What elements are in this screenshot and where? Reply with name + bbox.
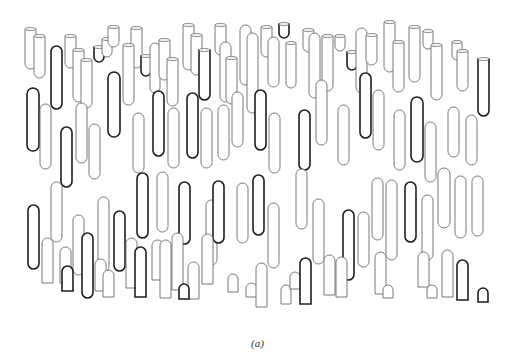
cell-shape-rod xyxy=(40,104,51,169)
cell-shape-rod xyxy=(153,91,164,156)
cell-shape-rod xyxy=(255,90,266,150)
cell-shape-cup xyxy=(347,50,357,70)
cell-shape-stub xyxy=(281,285,291,304)
cell-shape-rod xyxy=(213,181,224,243)
cell-shape-stub xyxy=(202,234,213,284)
cell-shape-cup xyxy=(141,54,151,76)
cell-shape-rod xyxy=(27,88,39,151)
cell-shape-tube xyxy=(286,41,296,88)
cell-shape-rod xyxy=(316,80,327,145)
cell-shape-rod xyxy=(268,37,279,87)
cell-shape-rod xyxy=(237,183,248,243)
cell-shape-stub xyxy=(442,250,453,297)
cell-shape-rod xyxy=(455,176,466,238)
cell-shape-cup xyxy=(335,34,345,51)
cell-shape-rod xyxy=(372,178,383,240)
cell-shape-rod xyxy=(268,203,279,268)
cell-shape-stub xyxy=(172,233,183,290)
cell-shape-stub xyxy=(62,266,73,291)
cell-shape-tube xyxy=(123,43,134,105)
cell-shape-rod xyxy=(201,108,212,168)
cell-shape-stub xyxy=(135,247,146,297)
cell-shape-stub xyxy=(246,283,257,297)
cell-shape-stub xyxy=(179,284,189,299)
cell-shape-stub xyxy=(228,274,238,292)
cell-shape-tube xyxy=(108,25,119,47)
cell-shape-rod xyxy=(360,73,371,138)
cell-shape-rod xyxy=(422,195,433,260)
cell-shape-rod xyxy=(448,107,459,157)
cell-shape-rod xyxy=(425,122,436,182)
cell-shape-rod xyxy=(82,233,93,298)
cell-shape-tube xyxy=(409,25,420,82)
cell-shape-tube xyxy=(366,33,377,65)
cell-shape-rod xyxy=(472,176,483,236)
cell-shape-stub xyxy=(256,263,267,307)
cell-shape-stub xyxy=(383,285,393,298)
cell-shape-rod xyxy=(269,113,280,173)
cell-shape-rod xyxy=(218,105,229,160)
cell-shape-stub xyxy=(42,238,53,283)
cell-shape-rod xyxy=(137,173,148,238)
cell-shape-rod xyxy=(338,105,349,165)
cell-field-figure xyxy=(0,0,515,330)
cell-shape-rod xyxy=(150,43,160,93)
cell-shape-stub xyxy=(457,260,468,300)
cell-shape-stub xyxy=(478,288,488,302)
cell-shape-rod xyxy=(133,113,144,173)
cell-shape-rod xyxy=(232,92,243,147)
cell-shape-rod xyxy=(296,169,307,229)
cell-shape-cup xyxy=(279,22,289,38)
cell-shape-tube xyxy=(167,57,178,106)
cell-shape-tube xyxy=(478,57,489,116)
cell-field-drawing xyxy=(0,0,515,330)
cell-shape-stub xyxy=(300,258,311,304)
cell-shape-rod xyxy=(411,97,423,162)
cell-shape-rod xyxy=(253,175,264,235)
cell-shape-rod xyxy=(386,180,397,260)
cell-shape-rod xyxy=(61,127,72,187)
cell-shape-rod xyxy=(168,108,179,168)
cell-shape-tube xyxy=(81,58,92,108)
cell-shape-rod xyxy=(51,46,62,109)
cell-shape-rod xyxy=(313,199,324,264)
cell-shape-stub xyxy=(336,257,347,297)
cell-shape-rod xyxy=(76,103,87,163)
cell-shape-stub xyxy=(418,252,429,287)
cell-shape-stub xyxy=(160,240,171,298)
cell-shape-rod xyxy=(405,182,416,242)
cell-shape-stub xyxy=(324,255,335,295)
cell-shape-stub xyxy=(103,270,114,297)
cell-shape-tube xyxy=(457,49,468,91)
cell-shape-rod xyxy=(187,93,198,158)
cell-shape-tube xyxy=(199,48,210,100)
cell-shape-rod xyxy=(51,182,62,242)
cell-shape-tube xyxy=(431,43,442,100)
cell-shape-rod xyxy=(28,205,39,269)
cell-shape-tube xyxy=(393,40,404,92)
figure-caption: (a) xyxy=(0,337,515,349)
cell-shape-stub xyxy=(290,272,300,289)
cell-shape-rod xyxy=(299,110,310,170)
cell-shape-rod xyxy=(373,90,384,150)
cell-shape-rod xyxy=(89,124,100,179)
cell-shape-rod xyxy=(358,212,369,267)
cell-shape-stub xyxy=(427,285,437,298)
cell-shape-rod xyxy=(466,115,477,165)
cell-shape-rod xyxy=(438,168,450,228)
cell-shape-rod xyxy=(157,172,168,232)
cell-shape-tube xyxy=(34,34,45,78)
cell-shape-rod xyxy=(114,211,125,271)
cell-shape-rod xyxy=(394,110,405,170)
cell-shape-rod xyxy=(108,72,120,137)
